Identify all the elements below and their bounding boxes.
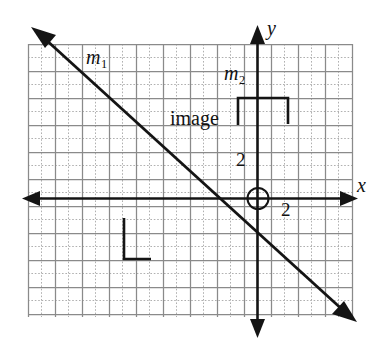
coordinate-grid-figure (0, 0, 379, 350)
y-axis-tick-label-2: 2 (236, 150, 246, 169)
line-m1-label: m1 (86, 47, 107, 70)
figure-canvas: m1 m2 image y x 2 2 (0, 0, 379, 350)
x-axis-right-arrowhead (340, 191, 358, 206)
y-axis-up-arrowhead (250, 25, 265, 44)
preimage-shape (124, 218, 151, 259)
x-axis-label: x (357, 175, 366, 195)
x-axis-left-arrowhead (22, 191, 40, 206)
x-axis-tick-label-2: 2 (281, 200, 291, 219)
line-m2-label: m2 (224, 63, 245, 86)
image-shape-label: image (170, 108, 219, 128)
y-axis-down-arrowhead (250, 319, 265, 338)
y-axis-label: y (267, 18, 276, 38)
